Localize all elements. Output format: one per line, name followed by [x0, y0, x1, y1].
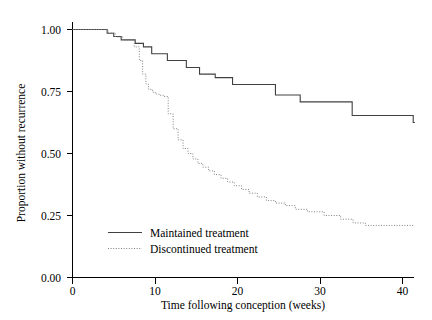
x-tick-label-30: 30 [314, 285, 326, 297]
y-axis-ticks [67, 30, 73, 278]
y-tick-label-025: 0.25 [41, 210, 61, 222]
series-maintained-treatment [73, 30, 415, 123]
y-tick-label-050: 0.50 [41, 148, 61, 160]
chart-legend: Maintained treatment Discontinued treatm… [108, 227, 258, 255]
x-tick-label-20: 20 [232, 285, 244, 297]
survival-plot: 0 10 20 30 40 0.00 0.25 0.50 0.75 1.00 T… [0, 0, 432, 320]
y-tick-label-000: 0.00 [41, 272, 61, 284]
series-discontinued-treatment [73, 30, 415, 226]
y-tick-label-100: 1.00 [41, 24, 61, 36]
series-group [73, 30, 415, 226]
x-axis-title: Time following conception (weeks) [161, 299, 325, 312]
y-axis-title: Proportion without recurrence [15, 84, 28, 223]
legend-label-maintained: Maintained treatment [150, 227, 249, 239]
x-axis-ticks [73, 278, 403, 284]
x-tick-label-10: 10 [149, 285, 161, 297]
legend-label-discontinued: Discontinued treatment [150, 243, 258, 255]
y-tick-label-075: 0.75 [41, 86, 61, 98]
x-tick-label-40: 40 [397, 285, 409, 297]
x-tick-label-0: 0 [70, 285, 76, 297]
chart-figure: 0 10 20 30 40 0.00 0.25 0.50 0.75 1.00 T… [0, 0, 432, 320]
